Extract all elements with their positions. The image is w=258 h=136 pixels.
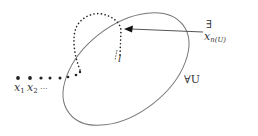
sequence-label-1: x1 <box>14 82 25 95</box>
sequence-label-2: x2 <box>27 82 38 95</box>
seq-1-sub: 1 <box>20 87 24 95</box>
dotted-loop <box>74 14 121 70</box>
set-ellipse <box>42 0 210 136</box>
sequence-dots <box>16 71 81 80</box>
arrow-line <box>131 29 203 32</box>
target-point-label: xn(U) <box>204 31 226 44</box>
line-label: l <box>118 54 121 64</box>
sequence-ellipsis: ... <box>40 83 48 91</box>
target-point-subscript: n(U) <box>210 36 226 44</box>
line-l-segment <box>115 50 117 60</box>
seq-2-sub: 2 <box>33 87 37 95</box>
diagram-canvas <box>0 0 258 136</box>
set-label: ∀U <box>184 74 200 85</box>
exists-symbol: ∃ <box>206 19 212 30</box>
arrow-head-icon <box>124 26 133 33</box>
